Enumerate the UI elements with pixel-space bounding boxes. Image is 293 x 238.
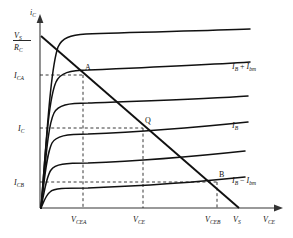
y-tick-label-ica: ICA: [13, 71, 24, 81]
point-a-label: A: [85, 63, 91, 72]
curve-3: [41, 96, 248, 208]
y-axis-label: iC: [30, 8, 36, 18]
x-tick-label-vceb: VCEB: [205, 215, 221, 225]
y-tick-label-ic: IC: [17, 124, 25, 134]
fraction-numerator: VS: [14, 31, 22, 41]
point-b-label: B: [219, 170, 224, 179]
x-axis-label: VCE: [263, 215, 276, 225]
y-tick-vs-over-rc: VS RC: [13, 31, 31, 53]
x-axis-arrow: [274, 205, 283, 212]
figure-canvas: iC VS RC ICA IC ICB: [0, 0, 293, 238]
x-tick-label-vs: VS: [233, 215, 241, 225]
x-tick-label-vcea: VCEA: [71, 215, 87, 225]
fraction-denominator: RC: [13, 43, 23, 53]
point-q-label: Q: [145, 116, 151, 125]
curve-labels: IB + Ibm IB IB − Ibm: [231, 62, 256, 186]
load-line-diagram: iC VS RC ICA IC ICB: [0, 0, 293, 238]
x-axis-tick-labels: VCEA VCE VCEB VS VCE: [71, 215, 276, 225]
y-axis-arrow: [37, 14, 44, 23]
y-tick-label-icb: ICB: [13, 178, 24, 188]
y-axis-tick-labels: iC VS RC ICA IC ICB: [13, 8, 36, 188]
x-tick-label-vce: VCE: [133, 215, 146, 225]
